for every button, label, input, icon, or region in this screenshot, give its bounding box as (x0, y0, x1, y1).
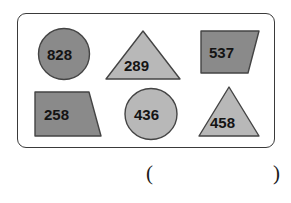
shape-value-458: 458 (210, 115, 235, 130)
shape-trapezoid-537[interactable]: 537 (199, 29, 261, 75)
answer-open-paren: ( (146, 163, 153, 184)
shape-circle-828[interactable]: 828 (37, 27, 91, 81)
shape-value-436: 436 (134, 107, 159, 122)
shape-value-537: 537 (209, 45, 234, 60)
answer-close-paren: ) (273, 163, 280, 184)
shape-value-258: 258 (44, 107, 69, 122)
shape-value-289: 289 (124, 58, 149, 73)
shape-value-828: 828 (47, 47, 72, 62)
shape-circle-436[interactable]: 436 (123, 87, 179, 141)
shape-triangle-289[interactable]: 289 (104, 29, 182, 81)
answer-row: ( ) (0, 158, 291, 194)
shape-triangle-458[interactable]: 458 (197, 85, 261, 138)
worksheet-page: 828 289 537 258 436 (0, 0, 291, 203)
shape-trapezoid-258[interactable]: 258 (33, 90, 103, 138)
shapes-container: 828 289 537 258 436 (17, 13, 275, 148)
